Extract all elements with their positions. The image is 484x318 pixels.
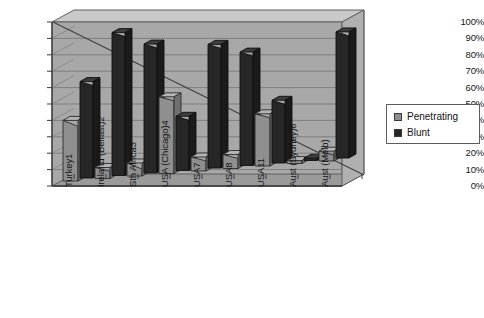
legend-label-penetrating: Penetrating — [407, 112, 458, 122]
bar-blunt — [240, 52, 253, 165]
y-tick-label: 100% — [440, 17, 484, 27]
bar-blunt-side — [349, 28, 356, 158]
legend-swatch-blunt — [394, 129, 402, 137]
bar-blunt — [272, 100, 285, 163]
x-tick-label-sth-africa3: Sth Africa3 — [128, 142, 138, 187]
legend-swatch-penetrating — [394, 113, 402, 121]
x-tick-label-aust-melb: Aust (Melb) — [320, 140, 330, 187]
bar-blunt — [144, 44, 157, 173]
y-tick-label: 0% — [440, 181, 484, 191]
x-tick-label-usa11: USA11 — [256, 158, 266, 187]
y-tick-label: 20% — [440, 148, 484, 158]
x-tick-label-usa8: USA8 — [224, 163, 234, 187]
bar-blunt — [176, 116, 189, 170]
x-tick-label-usa-chicago4: USA (Chicago)4 — [160, 120, 170, 187]
x-tick-label-turkey1: Turkey1 — [64, 154, 74, 187]
y-tick-label: 60% — [440, 83, 484, 93]
y-axis-ticks — [47, 22, 52, 186]
chart-legend: Penetrating Blunt — [386, 104, 480, 144]
y-tick-label: 70% — [440, 66, 484, 76]
x-tick-label-usa7: USA7 — [192, 163, 202, 187]
wall-ceiling — [52, 10, 364, 22]
chart-container: 100% 90% 80% 70% 60% 50% 40% 30% 20% 10%… — [0, 0, 484, 318]
bar-blunt — [208, 44, 221, 168]
plot-area: 100% 90% 80% 70% 60% 50% 40% 30% 20% 10%… — [0, 0, 484, 318]
bar-blunt-side — [221, 40, 228, 168]
x-tick-label-ireland: Ireland (Belfast)2 — [96, 116, 106, 187]
y-tick-label: 80% — [440, 50, 484, 60]
y-tick-label: 90% — [440, 33, 484, 43]
bar-blunt — [112, 33, 125, 176]
x-tick-label-aust-sydney6: Aust (Sydney)6 — [288, 123, 298, 187]
bar-blunt — [336, 32, 349, 158]
legend-entry-penetrating[interactable]: Penetrating — [394, 112, 458, 122]
y-tick-label: 10% — [440, 165, 484, 175]
legend-label-blunt: Blunt — [407, 128, 430, 138]
legend-entry-blunt[interactable]: Blunt — [394, 128, 430, 138]
bar-blunt — [80, 82, 93, 178]
